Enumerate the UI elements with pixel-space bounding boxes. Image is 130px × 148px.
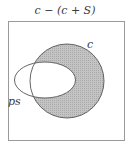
set-c-label: c	[87, 38, 93, 51]
diagram-title: c − (c + S)	[35, 4, 96, 17]
venn-diagram: c − (c + S) c ps	[0, 0, 130, 148]
set-ps-label: ps	[8, 95, 21, 108]
